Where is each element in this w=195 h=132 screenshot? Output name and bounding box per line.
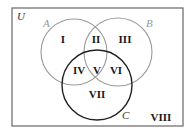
region-VIII: VIII	[151, 111, 172, 123]
universe-label: U	[17, 10, 26, 22]
region-V: V	[93, 64, 101, 76]
set-b-label: B	[146, 17, 153, 29]
set-a-label: A	[42, 17, 50, 29]
region-IV: IV	[73, 64, 85, 76]
region-VI: VI	[110, 64, 122, 76]
region-I: I	[61, 33, 65, 45]
region-III: III	[119, 33, 132, 45]
region-VII: VII	[89, 88, 106, 100]
region-II: II	[92, 33, 101, 45]
venn-diagram: U A B C I II III IV V VI VII VIII	[0, 0, 195, 132]
set-c-label: C	[122, 109, 130, 121]
